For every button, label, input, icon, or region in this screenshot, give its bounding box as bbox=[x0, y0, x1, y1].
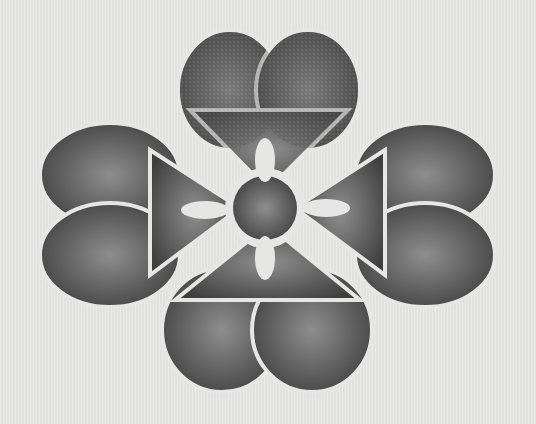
center-disc bbox=[233, 176, 297, 240]
embroidery-photo bbox=[0, 0, 536, 424]
flower-motif bbox=[0, 0, 536, 424]
